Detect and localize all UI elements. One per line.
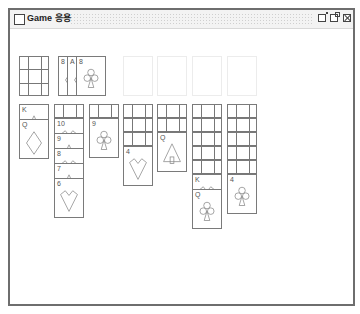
hearts-icon — [124, 155, 152, 185]
clubs-icon — [193, 198, 221, 228]
card-back-line — [20, 83, 48, 84]
clubs-icon — [77, 65, 105, 95]
hearts-icon — [55, 187, 83, 217]
tableau-4-card[interactable]: 4 — [123, 146, 153, 186]
foundation-slot-4[interactable] — [227, 56, 257, 96]
diamonds-icon — [20, 128, 48, 158]
stock-pile[interactable] — [19, 56, 49, 96]
tableau-6-card[interactable]: Q — [192, 189, 222, 229]
foundation-slot-3[interactable] — [192, 56, 222, 96]
waste-card[interactable]: 8 — [76, 56, 106, 96]
tableau-3-card[interactable]: 9 — [89, 118, 119, 158]
close-button[interactable] — [343, 14, 351, 22]
window-icon[interactable] — [14, 14, 25, 25]
card-back-line — [20, 69, 48, 70]
window-title: Game 응용 — [27, 13, 71, 24]
tableau-2-card[interactable]: 6 — [54, 178, 84, 218]
maximize-button[interactable] — [330, 14, 338, 22]
clubs-icon — [228, 183, 256, 213]
title-bar-pattern — [70, 13, 313, 24]
minimize-button[interactable] — [318, 14, 326, 22]
title-bar[interactable]: Game 응용 — [10, 10, 353, 29]
spades-icon — [158, 141, 186, 171]
tableau-7-card[interactable]: 4 — [227, 174, 257, 214]
tableau-1-card[interactable]: Q — [19, 119, 49, 159]
tableau-5-card[interactable]: Q — [157, 132, 187, 172]
foundation-slot-2[interactable] — [157, 56, 187, 96]
clubs-icon — [90, 127, 118, 157]
foundation-slot-1[interactable] — [123, 56, 153, 96]
